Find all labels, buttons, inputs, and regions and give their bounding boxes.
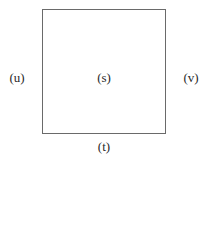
label-bottom-t: (t) (98, 140, 110, 154)
label-left-u: (u) (9, 71, 24, 85)
label-center-s: (s) (97, 71, 111, 85)
label-right-v: (v) (183, 71, 198, 85)
